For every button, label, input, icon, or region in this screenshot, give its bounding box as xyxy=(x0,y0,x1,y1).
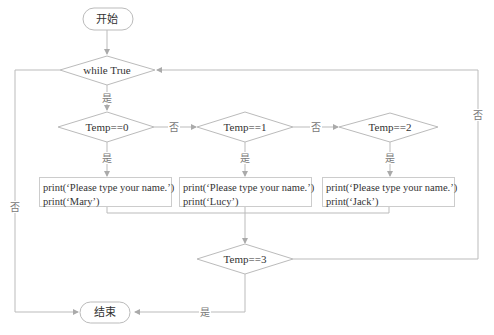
start-label: 开始 xyxy=(96,12,118,25)
decision-temp3: Temp==3 xyxy=(224,253,267,265)
no-label-while: 否 xyxy=(10,202,20,213)
yes-label-temp2: 是 xyxy=(385,153,395,164)
code-line: print(‘Please type your name.’) xyxy=(326,181,451,195)
decision-temp1: Temp==1 xyxy=(224,121,267,133)
decision-temp2: Temp==2 xyxy=(369,121,412,133)
end-label: 结束 xyxy=(94,306,116,318)
no-label-temp1: 否 xyxy=(311,122,321,133)
while-label: while True xyxy=(83,64,130,76)
no-label-temp3: 否 xyxy=(473,110,483,121)
code-line: print(‘Mary’) xyxy=(43,195,168,209)
process-box-lucy: print(‘Please type your name.’)print(‘Lu… xyxy=(179,177,312,207)
code-line: print(‘Lucy’) xyxy=(183,195,308,209)
process-box-jack: print(‘Please type your name.’)print(‘Ja… xyxy=(322,177,455,207)
yes-label-while: 是 xyxy=(102,93,112,104)
process-box-mary: print(‘Please type your name.’)print(‘Ma… xyxy=(39,177,172,207)
yes-label-temp0: 是 xyxy=(102,153,112,164)
code-line: print(‘Please type your name.’) xyxy=(43,181,168,195)
code-line: print(‘Please type your name.’) xyxy=(183,181,308,195)
no-label-temp0: 否 xyxy=(169,122,179,133)
yes-label-temp1: 是 xyxy=(240,153,250,164)
code-line: print(‘Jack’) xyxy=(326,195,451,209)
flowchart-canvas: 开始 while True Temp==0 Temp==1 Temp==2 Te… xyxy=(0,0,494,335)
yes-label-temp3: 是 xyxy=(200,307,210,318)
decision-temp0: Temp==0 xyxy=(86,121,129,133)
